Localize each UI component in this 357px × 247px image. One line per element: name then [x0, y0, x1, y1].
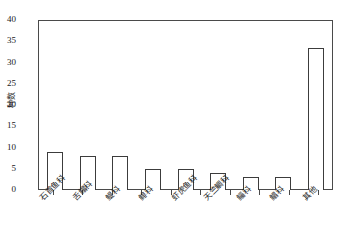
y-axis-tick-label: 20: [0, 100, 16, 109]
bar-slot: [137, 21, 170, 190]
bar-slot: [39, 21, 72, 190]
bar-chart: 种数 0510152025303540 石首鱼科舌鳎科鳀科鲱科虾虎鱼科天竺鲷科鲻…: [0, 0, 357, 247]
bar-slot: [300, 21, 333, 190]
y-axis-tick-label: 10: [0, 143, 16, 152]
y-axis-tick-label: 25: [0, 79, 16, 88]
y-axis-tick-label: 40: [0, 15, 16, 24]
y-axis-tick-label: 0: [0, 185, 16, 194]
bar[interactable]: [308, 48, 324, 190]
x-axis-tick-mark: [289, 190, 290, 195]
bar-slot: [234, 21, 267, 190]
y-axis-tick-label: 35: [0, 36, 16, 45]
bar-slot: [267, 21, 300, 190]
y-axis-tick-label: 5: [0, 164, 16, 173]
bar-slot: [72, 21, 105, 190]
bar-slot: [202, 21, 235, 190]
y-axis-tick-label: 15: [0, 121, 16, 130]
x-axis-tick-mark: [200, 190, 201, 195]
y-axis-tick-label: 30: [0, 58, 16, 67]
bar-slot: [169, 21, 202, 190]
x-axis-tick-labels: 石首鱼科舌鳎科鳀科鲱科虾虎鱼科天竺鲷科鲻科鲳科其他: [38, 196, 333, 246]
x-axis-tick-mark: [230, 190, 231, 195]
bar-slot: [104, 21, 137, 190]
bar-series: [39, 21, 332, 190]
x-axis-tick-mark: [259, 190, 260, 195]
